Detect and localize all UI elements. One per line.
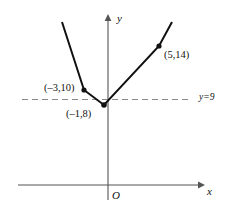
y-axis-arrowhead [105, 14, 112, 21]
point-label-5-14: (5,14) [164, 50, 189, 61]
point-label-neg1-8: (–1,8) [66, 109, 91, 120]
x-axis-arrowhead [198, 182, 205, 189]
origin-label: O [112, 190, 120, 201]
y-axis-label: y [117, 13, 122, 24]
data-point-5-14 [156, 43, 161, 48]
data-point-neg3-10 [81, 87, 86, 92]
x-axis-label: x [207, 186, 212, 197]
curve-absolute-value [62, 22, 172, 105]
asymptote-label: y=9 [199, 93, 214, 103]
data-point-neg1-8 [101, 102, 107, 108]
math-figure: (–3,10) (–1,8) (5,14) y x O y=9 [0, 0, 227, 215]
point-label-neg3-10: (–3,10) [44, 83, 75, 94]
plot-canvas [0, 0, 227, 215]
